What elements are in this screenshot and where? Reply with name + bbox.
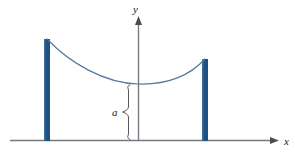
catenary-curve <box>47 39 205 84</box>
height-label: a <box>112 106 118 118</box>
y-axis-arrow-icon <box>135 16 142 25</box>
right-pole-highlight <box>202 59 204 141</box>
x-axis-arrow-icon <box>270 137 279 144</box>
left-pole-highlight <box>44 39 46 141</box>
x-axis-label: x <box>283 135 289 147</box>
figure-canvas: a y x <box>0 0 295 153</box>
catenary-figure: a y x <box>0 0 295 153</box>
y-axis-label: y <box>132 3 138 15</box>
height-brace <box>123 85 131 140</box>
